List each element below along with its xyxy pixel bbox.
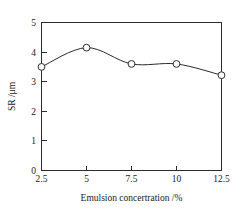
- x-tick-label: 2.5: [36, 174, 48, 184]
- y-tick-label: 1: [31, 136, 36, 146]
- y-tick-labels: 0 1 2 3 4 5: [31, 18, 36, 176]
- data-point: [128, 61, 135, 68]
- data-point: [38, 64, 45, 71]
- y-axis-ticks: [42, 23, 47, 171]
- x-axis-ticks: [42, 166, 222, 171]
- chart-figure: 0 1 2 3 4 5 2.5 5 7.5 10 12.5 Emulsion c…: [0, 0, 249, 212]
- x-tick-label: 5: [84, 174, 89, 184]
- data-point: [83, 44, 90, 51]
- y-tick-label: 3: [31, 77, 36, 87]
- x-tick-label: 7.5: [126, 174, 138, 184]
- y-tick-label: 4: [31, 48, 36, 58]
- y-axis-title: SR /μm: [7, 81, 17, 111]
- x-axis-title: Emulsion concertration /%: [81, 193, 183, 203]
- y-tick-label: 2: [31, 107, 36, 117]
- x-tick-label: 10: [172, 174, 182, 184]
- data-point: [173, 61, 180, 68]
- x-tick-labels: 2.5 5 7.5 10 12.5: [36, 174, 231, 184]
- series-markers: [38, 44, 225, 78]
- y-tick-label: 5: [31, 18, 36, 28]
- line-chart: 0 1 2 3 4 5 2.5 5 7.5 10 12.5 Emulsion c…: [0, 0, 249, 212]
- plot-frame: [42, 23, 222, 171]
- data-series-sr: [38, 44, 225, 78]
- data-point: [218, 72, 225, 79]
- x-tick-label: 12.5: [213, 174, 230, 184]
